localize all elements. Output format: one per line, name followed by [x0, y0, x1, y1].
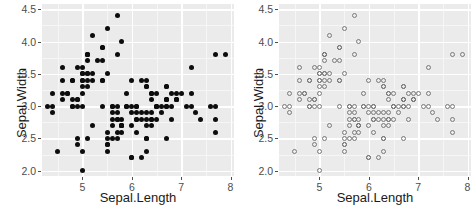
x-tick-label: 5 — [80, 181, 86, 193]
x-tick-mark — [82, 177, 83, 180]
data-point — [115, 136, 120, 141]
data-point — [60, 97, 65, 102]
data-point — [352, 52, 357, 57]
data-point — [391, 91, 396, 96]
data-point — [317, 168, 322, 173]
data-point — [129, 155, 134, 160]
data-point — [352, 104, 357, 109]
data-point — [129, 78, 134, 83]
data-point — [381, 78, 386, 83]
data-point — [386, 117, 391, 122]
y-tick-mark — [275, 138, 278, 139]
data-point — [297, 97, 302, 102]
data-point — [342, 130, 347, 135]
data-point — [406, 117, 411, 122]
data-point — [287, 91, 292, 96]
data-point — [159, 110, 164, 115]
data-point — [100, 104, 105, 109]
gridline-minor-vertical — [394, 4, 395, 176]
data-point — [50, 91, 55, 96]
data-point — [347, 123, 352, 128]
x-tick-mark — [319, 177, 320, 180]
data-point — [134, 130, 139, 135]
data-point — [144, 84, 149, 89]
data-point — [80, 91, 85, 96]
data-point — [317, 84, 322, 89]
data-point — [75, 65, 80, 70]
gridline-major-horizontal — [279, 74, 471, 75]
gridline-major-horizontal — [42, 9, 234, 10]
gridline-major-vertical — [132, 4, 133, 176]
data-point — [85, 78, 90, 83]
data-point — [105, 26, 110, 31]
figure-root: Sepal.Width Sepal.Length 2.02.53.03.54.0… — [0, 0, 474, 206]
data-point — [85, 136, 90, 141]
data-point — [347, 104, 352, 109]
data-point — [386, 97, 391, 102]
y-tick-mark — [38, 74, 41, 75]
data-point — [189, 104, 194, 109]
data-point — [90, 78, 95, 83]
data-point — [297, 65, 302, 70]
data-point — [105, 136, 110, 141]
data-point — [322, 84, 327, 89]
data-point — [337, 58, 342, 63]
data-point — [366, 78, 371, 83]
x-tick-label: 8 — [228, 181, 234, 193]
data-point — [80, 168, 85, 173]
data-point — [50, 110, 55, 115]
data-point — [342, 136, 347, 141]
x-tick-label: 6 — [366, 181, 372, 193]
data-point — [60, 91, 65, 96]
data-point — [100, 78, 105, 83]
data-point — [164, 104, 169, 109]
gridline-major-horizontal — [42, 74, 234, 75]
data-point — [80, 149, 85, 154]
y-tick-mark — [38, 138, 41, 139]
data-point — [115, 104, 120, 109]
data-point — [352, 136, 357, 141]
y-tick-mark — [38, 171, 41, 172]
data-point — [381, 117, 386, 122]
y-tick-mark — [38, 9, 41, 10]
data-point — [396, 110, 401, 115]
gridline-minor-vertical — [157, 4, 158, 176]
y-tick-label: 2.5 — [258, 132, 273, 144]
x-tick-mark — [132, 177, 133, 180]
data-point — [90, 123, 95, 128]
data-point — [317, 71, 322, 76]
data-point — [307, 104, 312, 109]
data-point — [421, 104, 426, 109]
x-tick-mark — [369, 177, 370, 180]
data-point — [376, 155, 381, 160]
data-point — [154, 117, 159, 122]
data-point — [356, 117, 361, 122]
gridline-major-vertical — [468, 4, 469, 176]
gridline-major-horizontal — [279, 42, 471, 43]
x-tick-label: 5 — [317, 181, 323, 193]
data-point — [169, 104, 174, 109]
data-point — [164, 84, 169, 89]
data-point — [60, 78, 65, 83]
y-tick-label: 2.0 — [21, 165, 36, 177]
data-point — [184, 104, 189, 109]
data-point — [115, 52, 120, 57]
y-tick-label: 4.0 — [258, 36, 273, 48]
data-point — [332, 58, 337, 63]
x-tick-label: 8 — [465, 181, 471, 193]
x-tick-label: 7 — [415, 181, 421, 193]
data-point — [149, 117, 154, 122]
data-point — [297, 91, 302, 96]
data-point — [144, 123, 149, 128]
plot-panel-right — [279, 4, 471, 176]
gridline-minor-vertical — [443, 4, 444, 176]
data-point — [119, 130, 124, 135]
data-point — [406, 91, 411, 96]
data-point — [337, 104, 342, 109]
data-point — [129, 123, 134, 128]
data-point — [110, 136, 115, 141]
data-point — [100, 45, 105, 50]
data-point — [105, 130, 110, 135]
data-point — [189, 91, 194, 96]
data-point — [352, 110, 357, 115]
